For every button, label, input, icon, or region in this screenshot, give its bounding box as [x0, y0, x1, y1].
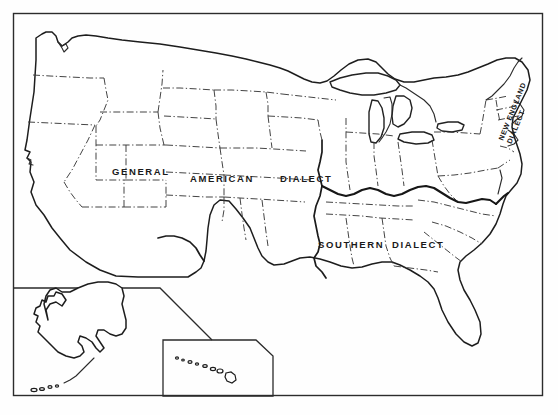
dialect-map-figure: GENERAL AMERICAN DIALECT SOUTHERN DIALEC…: [0, 0, 558, 415]
lake-ontario: [437, 122, 464, 132]
label-general-american-part2: AMERICAN: [190, 173, 254, 184]
hawaii-inset: [163, 340, 273, 396]
lake-michigan: [369, 100, 384, 143]
label-southern-part1: SOUTHERN: [318, 239, 384, 250]
alaska-inset: [14, 282, 212, 392]
lake-erie: [398, 132, 434, 144]
label-southern-part2: DIALECT: [392, 239, 444, 250]
hawaiian-islands: [176, 357, 237, 383]
aleutian-islands: [31, 358, 94, 392]
hawaii-inset-box: [163, 340, 273, 396]
label-general-american-part1: GENERAL: [112, 166, 170, 177]
alaska-outline: [34, 282, 126, 358]
us-dialect-map: GENERAL AMERICAN DIALECT SOUTHERN DIALEC…: [0, 0, 558, 415]
label-general-american-part3: DIALECT: [280, 173, 332, 184]
